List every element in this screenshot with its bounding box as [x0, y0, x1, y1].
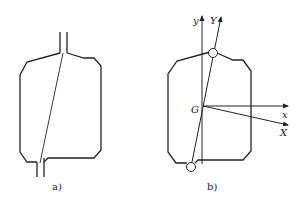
label-x: x	[282, 109, 288, 120]
top-pipe	[60, 32, 67, 53]
label-y: y	[192, 15, 199, 26]
label-Y: Y	[210, 15, 218, 26]
bottom-connection-circle	[187, 163, 196, 172]
top-connection-circle	[209, 49, 218, 58]
vessel-outline	[20, 53, 101, 162]
caption-a: a)	[52, 181, 62, 192]
caption-b: b)	[207, 181, 217, 192]
panel-b: y Y G x X b)	[168, 15, 288, 192]
X-axis	[203, 106, 288, 125]
panel-a: a)	[20, 32, 101, 192]
label-G: G	[191, 104, 199, 115]
Y-axis	[191, 17, 221, 167]
diagonal-line	[40, 53, 63, 163]
figure: a) y Y G x X b)	[0, 0, 303, 208]
label-X: X	[279, 127, 288, 138]
